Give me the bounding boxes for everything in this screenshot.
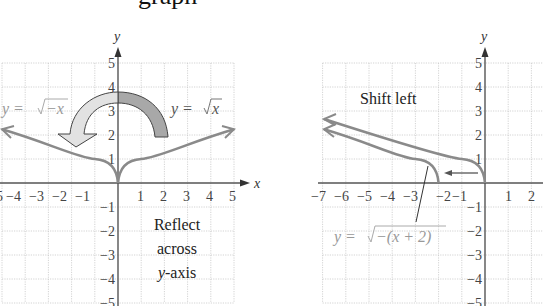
shift-arrow-head-icon xyxy=(444,170,452,176)
left-x-axis-label: x xyxy=(253,176,261,191)
svg-text:−4: −4 xyxy=(467,272,482,287)
svg-text:−4: −4 xyxy=(380,189,395,204)
shifted-eq-label: y = −(x + 2) xyxy=(332,226,446,246)
left-y-axis-arrow-icon xyxy=(115,47,122,57)
svg-text:−3: −3 xyxy=(29,189,44,204)
svg-text:across: across xyxy=(157,240,197,257)
svg-text:y-axis: y-axis xyxy=(156,264,196,282)
svg-text:4: 4 xyxy=(206,189,213,204)
svg-text:−x: −x xyxy=(46,100,64,117)
right-eq-label: y = x xyxy=(169,99,222,118)
right-y-tick-labels: 54321 −1−2−3−4−5 xyxy=(467,56,482,306)
svg-text:2: 2 xyxy=(528,189,535,204)
svg-text:5: 5 xyxy=(0,189,3,204)
shift-left-annotation: Shift left xyxy=(360,90,417,107)
svg-text:5: 5 xyxy=(475,56,482,71)
left-x-axis-arrow-icon xyxy=(240,180,250,187)
svg-text:Reflect: Reflect xyxy=(154,216,201,233)
left-y-axis-label: y xyxy=(112,29,121,44)
svg-text:−2: −2 xyxy=(436,189,451,204)
svg-text:−2: −2 xyxy=(100,224,115,239)
svg-text:−2: −2 xyxy=(467,224,482,239)
svg-text:−5: −5 xyxy=(100,296,115,306)
figure: graph x y 5 −4−3−2−1 12345 xyxy=(0,0,543,306)
svg-text:3: 3 xyxy=(183,189,190,204)
svg-text:5: 5 xyxy=(108,56,115,71)
svg-text:−7: −7 xyxy=(311,189,326,204)
svg-text:−(x + 2): −(x + 2) xyxy=(376,228,431,246)
curve-sqrt-neg-x xyxy=(2,129,118,183)
left-eq-label: y = −x xyxy=(0,99,68,118)
svg-text:−1: −1 xyxy=(100,200,115,215)
svg-text:y =: y = xyxy=(332,228,356,246)
left-graph: x y 5 −4−3−2−1 12345 54321 −1−2−3−4−5 y … xyxy=(0,29,261,306)
svg-text:1: 1 xyxy=(137,189,144,204)
svg-text:3: 3 xyxy=(108,104,115,119)
svg-text:5: 5 xyxy=(229,189,236,204)
right-y-axis-arrow-icon xyxy=(482,47,489,57)
svg-text:−3: −3 xyxy=(467,248,482,263)
reflect-arrow-right-half xyxy=(118,92,168,137)
cropped-title: graph xyxy=(138,0,197,10)
svg-text:−4: −4 xyxy=(6,189,21,204)
svg-text:2: 2 xyxy=(108,128,115,143)
svg-text:−1: −1 xyxy=(452,189,467,204)
svg-text:2: 2 xyxy=(475,128,482,143)
svg-text:2: 2 xyxy=(160,189,167,204)
svg-text:y =: y = xyxy=(0,100,24,118)
svg-text:−3: −3 xyxy=(100,248,115,263)
svg-text:y =: y = xyxy=(169,100,193,118)
svg-text:−1: −1 xyxy=(75,189,90,204)
svg-text:−6: −6 xyxy=(334,189,349,204)
svg-text:1: 1 xyxy=(505,189,512,204)
svg-text:−5: −5 xyxy=(467,296,482,306)
reflect-annotation: Reflect across y-axis xyxy=(154,216,201,282)
svg-text:−3: −3 xyxy=(403,189,418,204)
curve-sqrt-x xyxy=(118,129,234,183)
svg-text:−5: −5 xyxy=(357,189,372,204)
svg-text:x: x xyxy=(211,100,219,117)
svg-text:−4: −4 xyxy=(100,272,115,287)
svg-text:−2: −2 xyxy=(52,189,67,204)
svg-text:4: 4 xyxy=(475,80,482,95)
svg-text:−1: −1 xyxy=(467,200,482,215)
svg-text:3: 3 xyxy=(475,104,482,119)
right-y-axis-label: y xyxy=(479,29,488,44)
right-graph: y −7−6−5−4 −3−2−1 12 54321 −1−2−3−4−5 Sh… xyxy=(311,29,543,306)
